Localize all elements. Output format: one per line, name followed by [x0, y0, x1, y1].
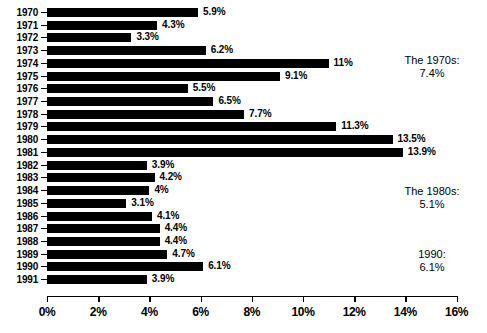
- bar-value-label: 11.3%: [341, 119, 368, 133]
- bar: [47, 250, 167, 259]
- bar: [47, 199, 126, 208]
- year-label-1983: 1983: [0, 172, 38, 183]
- year-label-1979: 1979: [0, 121, 38, 132]
- x-axis-tick-label: 14%: [394, 305, 417, 319]
- year-label-1989: 1989: [0, 249, 38, 260]
- bar-value-label: 9.1%: [285, 69, 307, 83]
- bar: [47, 110, 244, 119]
- year-label-1973: 1973: [0, 45, 38, 56]
- x-axis-tick-label: 6%: [192, 305, 209, 319]
- x-axis-tick: [98, 296, 99, 302]
- bar: [47, 237, 160, 246]
- bar-row: 13.5%: [47, 135, 457, 144]
- bar-value-label: 7.7%: [249, 107, 271, 121]
- year-label-1970: 1970: [0, 7, 38, 18]
- bar-row: 4.4%: [47, 237, 457, 246]
- bar: [47, 262, 203, 271]
- x-axis-tick: [354, 296, 355, 302]
- x-axis-tick: [201, 296, 202, 302]
- annotation-title: 1990:: [372, 248, 487, 261]
- year-label-1991: 1991: [0, 274, 38, 285]
- annotation-decade-1980s: The 1980s:5.1%: [372, 185, 487, 211]
- year-label-1975: 1975: [0, 71, 38, 82]
- bar-row: 6.5%: [47, 97, 457, 106]
- year-label-1974: 1974: [0, 58, 38, 69]
- bar: [47, 275, 147, 284]
- bar: [47, 33, 131, 42]
- bar: [47, 173, 155, 182]
- bar-row: 5.9%: [47, 8, 457, 17]
- annotation-value: 7.4%: [372, 67, 487, 80]
- bar: [47, 84, 188, 93]
- annotation-year-1990: 1990:6.1%: [372, 248, 487, 274]
- bar-value-label: 11%: [334, 56, 353, 70]
- x-axis-tick-label: 16%: [445, 305, 468, 319]
- bar-value-label: 5.9%: [203, 5, 225, 19]
- bar-row: 4.3%: [47, 21, 457, 30]
- bar-value-label: 6.1%: [208, 259, 230, 273]
- x-axis-tick-label: 10%: [291, 305, 314, 319]
- x-axis-tick: [457, 296, 458, 302]
- bar: [47, 212, 152, 221]
- bar: [47, 8, 198, 17]
- bar: [47, 148, 403, 157]
- x-axis-tick-label: 0%: [39, 305, 56, 319]
- year-label-1988: 1988: [0, 236, 38, 247]
- year-label-1985: 1985: [0, 198, 38, 209]
- bar-value-label: 13.9%: [408, 145, 436, 159]
- x-axis-tick: [47, 296, 48, 302]
- bar: [47, 186, 149, 195]
- year-label-1980: 1980: [0, 134, 38, 145]
- year-label-1972: 1972: [0, 32, 38, 43]
- annotation-title: The 1970s:: [372, 54, 487, 67]
- bar-row: 4.4%: [47, 224, 457, 233]
- bar-value-label: 3.9%: [152, 272, 174, 286]
- annotation-title: The 1980s:: [372, 185, 487, 198]
- x-axis-tick-label: 12%: [343, 305, 366, 319]
- x-axis-tick: [405, 296, 406, 302]
- bar-value-label: 3.3%: [136, 30, 158, 44]
- bar-value-label: 6.5%: [218, 94, 240, 108]
- year-label-1982: 1982: [0, 160, 38, 171]
- annotation-value: 6.1%: [372, 261, 487, 274]
- bar: [47, 72, 280, 81]
- x-axis-tick: [252, 296, 253, 302]
- bar-row: 11.3%: [47, 122, 457, 131]
- year-label-1971: 1971: [0, 20, 38, 31]
- bar-value-label: 4.3%: [162, 18, 184, 32]
- bar-row: 3.9%: [47, 275, 457, 284]
- bar: [47, 224, 160, 233]
- bar-row: 5.5%: [47, 84, 457, 93]
- bar-chart: 1970197119721973197419751976197719781979…: [0, 0, 487, 333]
- year-label-1978: 1978: [0, 109, 38, 120]
- bar: [47, 135, 393, 144]
- bar-row: 3.3%: [47, 33, 457, 42]
- year-label-1984: 1984: [0, 185, 38, 196]
- bar-value-label: 3.1%: [131, 196, 153, 210]
- year-label-1986: 1986: [0, 211, 38, 222]
- x-axis-tick: [303, 296, 304, 302]
- x-axis-tick: [149, 296, 150, 302]
- year-label-1987: 1987: [0, 223, 38, 234]
- x-axis-tick-label: 8%: [243, 305, 260, 319]
- year-label-1977: 1977: [0, 96, 38, 107]
- bar: [47, 161, 147, 170]
- bar-value-label: 6.2%: [211, 43, 233, 57]
- annotation-decade-1970s: The 1970s:7.4%: [372, 54, 487, 80]
- bar: [47, 59, 329, 68]
- bar: [47, 97, 213, 106]
- bar-row: 4.2%: [47, 173, 457, 182]
- bar-row: 3.9%: [47, 161, 457, 170]
- bar: [47, 21, 157, 30]
- bar-row: 7.7%: [47, 110, 457, 119]
- x-axis-tick-label: 2%: [90, 305, 107, 319]
- bar-row: 4.1%: [47, 212, 457, 221]
- year-label-1976: 1976: [0, 83, 38, 94]
- bar: [47, 46, 206, 55]
- bar-value-label: 4.7%: [172, 247, 194, 261]
- year-label-1981: 1981: [0, 147, 38, 158]
- bar-row: 13.9%: [47, 148, 457, 157]
- bar-value-label: 4%: [154, 183, 168, 197]
- x-axis-tick-label: 4%: [141, 305, 158, 319]
- bar-value-label: 5.5%: [193, 81, 215, 95]
